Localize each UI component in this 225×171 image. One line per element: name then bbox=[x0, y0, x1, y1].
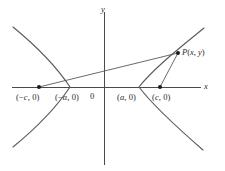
figure-canvas bbox=[0, 0, 225, 171]
label-origin: 0 bbox=[90, 92, 94, 101]
y-axis-label: y bbox=[101, 5, 105, 14]
label-left-vertex: (−a, 0) bbox=[55, 93, 79, 102]
right-focus-dot bbox=[158, 85, 162, 89]
focal-radius-right bbox=[160, 53, 178, 87]
label-right-vertex: (a, 0) bbox=[117, 93, 136, 102]
hyperbola-figure: (−c, 0) (−a, 0) 0 (a, 0) (c, 0) P(x, y) … bbox=[0, 0, 225, 171]
label-point-p: P(x, y) bbox=[182, 48, 205, 57]
focal-radius-left bbox=[39, 53, 178, 87]
x-axis-label: x bbox=[204, 82, 208, 91]
point-p-dot bbox=[176, 51, 180, 55]
label-left-focus: (−c, 0) bbox=[16, 93, 39, 102]
label-right-focus: (c, 0) bbox=[152, 93, 171, 102]
left-focus-dot bbox=[37, 85, 41, 89]
